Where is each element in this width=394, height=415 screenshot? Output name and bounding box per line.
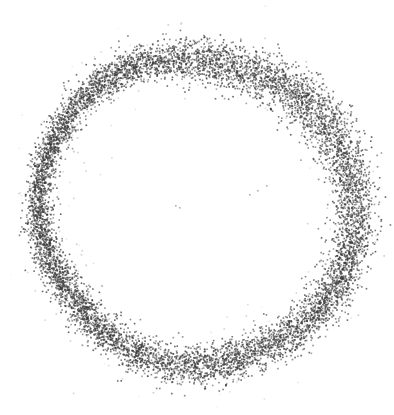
scatter-plot-figure — [0, 0, 394, 415]
scatter-plot-overlay — [0, 0, 394, 415]
